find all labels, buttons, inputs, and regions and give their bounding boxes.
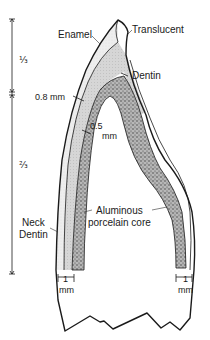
translucent-label: Translucent [132, 24, 184, 35]
incisal-thickness-label: 0.8 mm [35, 92, 65, 102]
core-label-line1: Aluminous [96, 205, 143, 216]
core-leader-right [152, 207, 167, 210]
proportion-scale [9, 19, 15, 274]
core-thickness-unit: mm [102, 131, 117, 141]
lower-two-thirds-label: ⅔ [19, 160, 28, 170]
neck-dentin-label-line1: Neck [22, 217, 46, 228]
tooth-root-outline [56, 270, 194, 331]
left-shoulder-value: 1 [63, 274, 68, 284]
right-shoulder-value: 1 [183, 274, 188, 284]
neck-dentin-label-line2: Dentin [19, 229, 48, 240]
left-shoulder-unit: mm [59, 285, 74, 295]
porcelain-jacket-crown-diagram: ⅓ ⅔ Enamel Translucent Dentin 0.8 mm 0.5… [0, 0, 210, 340]
dentin-label: Dentin [132, 70, 161, 81]
enamel-label: Enamel [58, 29, 92, 40]
right-shoulder-unit: mm [178, 285, 193, 295]
core-thickness-value: 0.5 [90, 121, 103, 131]
enamel-leader [92, 36, 100, 44]
core-label-line2: porcelain core [88, 217, 151, 228]
upper-third-label: ⅓ [19, 55, 28, 65]
